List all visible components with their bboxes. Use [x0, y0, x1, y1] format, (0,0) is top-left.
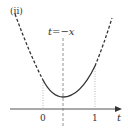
- diagram-canvas: [0, 0, 128, 129]
- parabola-right-dashed: [95, 18, 112, 66]
- parabola-left-dashed: [15, 14, 43, 80]
- panel-label: (ii): [10, 7, 23, 16]
- tick-label-0: 0: [40, 114, 46, 123]
- parabola-diagram: (ii) t=−x 0 1 t: [0, 0, 128, 129]
- tick-label-1: 1: [92, 114, 98, 123]
- axis-of-symmetry-label: t=−x: [48, 27, 74, 37]
- parabola-solid-segment: [43, 66, 95, 97]
- x-axis-label: t: [117, 113, 121, 123]
